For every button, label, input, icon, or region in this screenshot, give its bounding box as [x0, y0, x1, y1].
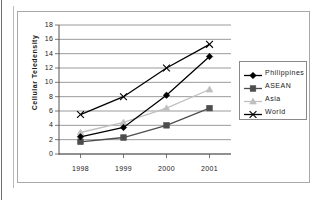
x-axis-tick-label: 1998: [66, 165, 96, 173]
legend-item-asean[interactable]: ASEAN: [240, 79, 306, 92]
square-marker-icon: [243, 80, 263, 91]
legend-item-asia[interactable]: Asia: [240, 92, 306, 105]
chart-frame: Cellular Teledensity 1816141210864201998…: [17, 11, 310, 183]
y-axis-tick-label: 0: [21, 150, 53, 158]
legend-label: World: [263, 108, 286, 115]
y-axis-tick-label: 6: [21, 107, 53, 115]
x-axis-tick-label: 1999: [109, 165, 139, 173]
page-margin-rule-inner: [13, 6, 14, 188]
legend-label: Philippines: [263, 69, 304, 76]
triangle-marker-icon: [243, 93, 263, 104]
y-axis-tick-label: 2: [21, 136, 53, 144]
y-axis-tick-label: 14: [21, 50, 53, 58]
x-axis-tick-label: 2001: [195, 165, 225, 173]
y-axis-tick-label: 16: [21, 35, 53, 43]
chart-legend: PhilippinesASEANAsiaWorld: [239, 61, 307, 120]
x-axis-tick-label: 2000: [152, 165, 182, 173]
legend-label: Asia: [263, 95, 281, 102]
legend-item-world[interactable]: World: [240, 105, 306, 118]
y-axis-tick-label: 18: [21, 21, 53, 29]
y-axis-tick-label: 10: [21, 78, 53, 86]
diamond-marker-icon: [243, 67, 263, 78]
y-axis-tick-label: 12: [21, 64, 53, 72]
page-margin-rule-outer: [1, 0, 2, 200]
legend-label: ASEAN: [263, 82, 291, 89]
legend-item-philippines[interactable]: Philippines: [240, 66, 306, 79]
y-axis-tick-label: 8: [21, 93, 53, 101]
x-marker-icon: [243, 106, 263, 117]
y-axis-tick-label: 4: [21, 121, 53, 129]
